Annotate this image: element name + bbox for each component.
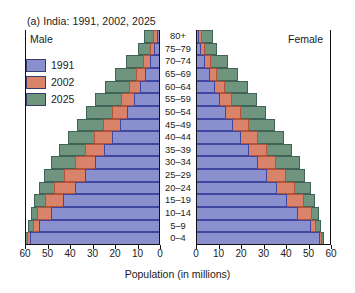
bar-band-15–19 <box>196 194 331 207</box>
age-group-label-25–29: 25–29 <box>160 169 196 182</box>
bar-1991-60–64 <box>140 81 160 94</box>
bar-band-75–79 <box>25 43 160 56</box>
bar-1991-10–14 <box>51 207 160 220</box>
bar-band-25–29 <box>196 169 331 182</box>
bar-1991-65–69 <box>196 68 210 81</box>
bar-1991-70–74 <box>196 55 205 68</box>
bar-1991-55–59 <box>196 93 220 106</box>
female-axis-left-spine <box>196 30 197 245</box>
bar-band-35–39 <box>25 144 160 157</box>
female-plot-panel: 0102030405060 <box>196 30 331 245</box>
bar-band-25–29 <box>25 169 160 182</box>
bar-band-30–34 <box>196 156 331 169</box>
axis-tick-label: 40 <box>280 248 291 259</box>
bar-band-75–79 <box>196 43 331 56</box>
bar-band-55–59 <box>196 93 331 106</box>
bar-band-20–24 <box>25 182 160 195</box>
bar-1991-25–29 <box>85 169 160 182</box>
bar-band-40–44 <box>196 131 331 144</box>
bar-band-40–44 <box>25 131 160 144</box>
bar-band-35–39 <box>196 144 331 157</box>
axis-tick-label: 60 <box>325 248 336 259</box>
bar-1991-45–49 <box>196 119 233 132</box>
bar-band-65–69 <box>196 68 331 81</box>
bar-band-15–19 <box>25 194 160 207</box>
female-bars <box>196 30 331 245</box>
bar-band-80+ <box>25 30 160 43</box>
bar-band-60–64 <box>196 81 331 94</box>
axis-tick-label: 50 <box>42 248 53 259</box>
bar-1991-5–9 <box>39 220 161 233</box>
axis-tick-label: 10 <box>213 248 224 259</box>
bar-1991-35–39 <box>196 144 249 157</box>
bar-1991-50–54 <box>196 106 226 119</box>
axis-tick-label: 0 <box>157 248 163 259</box>
bar-band-10–14 <box>25 207 160 220</box>
age-group-label-75–79: 75–79 <box>160 43 196 56</box>
male-plot-panel: 0102030405060 <box>25 30 160 245</box>
age-group-label-0–4: 0–4 <box>160 232 196 245</box>
bar-1991-35–39 <box>104 144 160 157</box>
bar-band-70–74 <box>196 55 331 68</box>
bar-band-70–74 <box>25 55 160 68</box>
female-axis-right-spine <box>330 30 331 245</box>
bar-band-45–49 <box>25 119 160 132</box>
age-group-label-10–14: 10–14 <box>160 207 196 220</box>
age-group-axis: 0–45–910–1415–1920–2425–2930–3435–3940–4… <box>160 30 196 245</box>
age-group-label-45–49: 45–49 <box>160 119 196 132</box>
bar-1991-60–64 <box>196 81 215 94</box>
age-group-label-70–74: 70–74 <box>160 55 196 68</box>
age-group-label-20–24: 20–24 <box>160 182 196 195</box>
bar-band-10–14 <box>196 207 331 220</box>
bar-1991-15–19 <box>63 194 160 207</box>
bar-1991-30–34 <box>95 156 160 169</box>
axis-tick-label: 30 <box>258 248 269 259</box>
age-group-label-80+: 80+ <box>160 30 196 43</box>
bar-1991-25–29 <box>196 169 267 182</box>
bar-band-5–9 <box>25 220 160 233</box>
bar-band-50–54 <box>25 106 160 119</box>
age-group-label-30–34: 30–34 <box>160 156 196 169</box>
bar-1991-30–34 <box>196 156 258 169</box>
axis-tick-label: 30 <box>87 248 98 259</box>
axis-tick-label: 40 <box>64 248 75 259</box>
age-group-label-15–19: 15–19 <box>160 194 196 207</box>
age-group-label-35–39: 35–39 <box>160 144 196 157</box>
axis-tick-label: 0 <box>193 248 199 259</box>
bar-1991-40–44 <box>196 131 241 144</box>
bar-1991-45–49 <box>120 119 161 132</box>
figure-title: (a) India: 1991, 2002, 2025 <box>27 15 156 27</box>
age-group-label-5–9: 5–9 <box>160 220 196 233</box>
age-group-label-65–69: 65–69 <box>160 68 196 81</box>
bar-1991-15–19 <box>196 194 287 207</box>
axis-tick-label: 10 <box>132 248 143 259</box>
bar-band-55–59 <box>25 93 160 106</box>
age-group-label-55–59: 55–59 <box>160 93 196 106</box>
population-pyramid-figure: (a) India: 1991, 2002, 2025 Male Female … <box>0 0 355 293</box>
bar-1991-20–24 <box>196 182 277 195</box>
age-group-label-50–54: 50–54 <box>160 106 196 119</box>
bar-1991-65–69 <box>145 68 160 81</box>
bar-band-65–69 <box>25 68 160 81</box>
bar-band-20–24 <box>196 182 331 195</box>
bar-1991-40–44 <box>112 131 160 144</box>
axis-tick-label: 50 <box>303 248 314 259</box>
male-axis-left-spine <box>25 30 26 245</box>
age-group-label-40–44: 40–44 <box>160 131 196 144</box>
axis-tick-label: 20 <box>109 248 120 259</box>
bar-1991-10–14 <box>196 207 298 220</box>
bar-1991-50–54 <box>127 106 160 119</box>
bar-1991-20–24 <box>75 182 161 195</box>
x-axis-title: Population (in millions) <box>0 268 355 280</box>
male-bars <box>25 30 160 245</box>
bar-band-30–34 <box>25 156 160 169</box>
bar-band-60–64 <box>25 81 160 94</box>
age-group-label-60–64: 60–64 <box>160 81 196 94</box>
axis-tick-label: 60 <box>19 248 30 259</box>
bar-band-45–49 <box>196 119 331 132</box>
bar-band-80+ <box>196 30 331 43</box>
bar-band-5–9 <box>196 220 331 233</box>
axis-tick-label: 20 <box>235 248 246 259</box>
bar-1991-55–59 <box>134 93 160 106</box>
bar-1991-5–9 <box>196 220 311 233</box>
